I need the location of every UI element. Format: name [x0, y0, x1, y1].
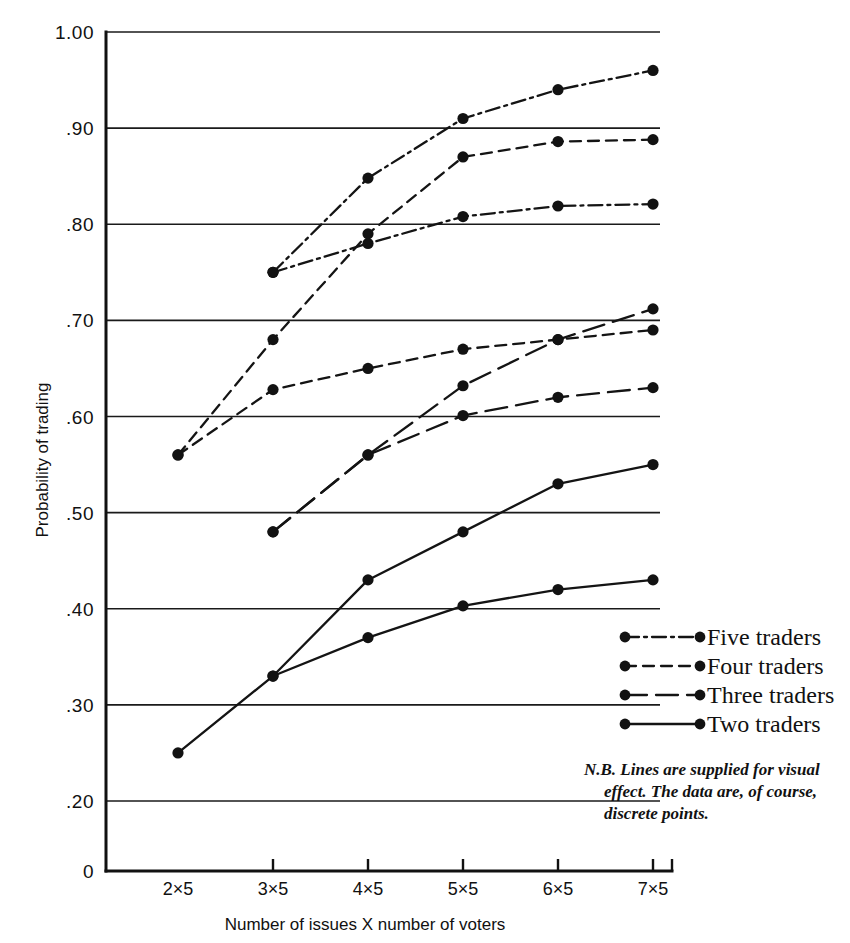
- x-axis-title: Number of issues X number of voters: [225, 915, 506, 934]
- data-point-marker: [552, 200, 563, 211]
- data-point-marker: [552, 478, 563, 489]
- data-point-marker: [267, 526, 278, 537]
- legend-label: Five traders: [707, 624, 821, 650]
- chart-figure: 1.00.90.80.70.60.50.40.30.200 2×53×54×55…: [0, 0, 850, 943]
- data-point-marker: [552, 584, 563, 595]
- figure-note-line: N.B. Lines are supplied for visual: [583, 760, 820, 779]
- data-point-marker: [457, 380, 468, 391]
- y-tick-label: .80: [66, 214, 94, 235]
- figure-note-line: discrete points.: [604, 804, 709, 823]
- data-point-marker: [647, 198, 658, 209]
- legend-label: Three traders: [707, 682, 834, 708]
- y-axis-title: Probability of trading: [33, 383, 52, 538]
- data-point-marker: [267, 670, 278, 681]
- data-point-marker: [552, 334, 563, 345]
- x-tick-label: 4×5: [353, 879, 384, 899]
- probability-of-trading-line-chart: 1.00.90.80.70.60.50.40.30.200 2×53×54×55…: [0, 0, 850, 943]
- legend-marker-start: [620, 632, 631, 643]
- data-point-marker: [647, 459, 658, 470]
- y-tick-label: 0: [83, 861, 94, 882]
- data-point-marker: [267, 334, 278, 345]
- legend-marker-start: [620, 719, 631, 730]
- y-tick-label: .40: [66, 599, 94, 620]
- y-tick-label: 1.00: [55, 22, 94, 43]
- data-point-marker: [267, 384, 278, 395]
- legend-marker-end: [695, 690, 706, 701]
- data-point-marker: [267, 267, 278, 278]
- data-point-marker: [552, 392, 563, 403]
- data-point-marker: [172, 449, 183, 460]
- x-tick-label: 6×5: [543, 879, 574, 899]
- y-tick-label: .30: [66, 695, 94, 716]
- data-point-marker: [647, 382, 658, 393]
- x-tick-label: 7×5: [638, 879, 669, 899]
- data-point-marker: [362, 173, 373, 184]
- data-point-marker: [647, 574, 658, 585]
- data-point-marker: [362, 238, 373, 249]
- legend-marker-end: [695, 661, 706, 672]
- y-tick-label: .50: [66, 503, 94, 524]
- x-tick-label: 2×5: [163, 879, 194, 899]
- legend-marker-end: [695, 719, 706, 730]
- data-point-marker: [172, 747, 183, 758]
- data-point-marker: [362, 449, 373, 460]
- data-point-marker: [647, 324, 658, 335]
- data-point-marker: [362, 363, 373, 374]
- x-tick-label: 3×5: [258, 879, 289, 899]
- legend-marker-start: [620, 690, 631, 701]
- data-point-marker: [552, 84, 563, 95]
- data-point-marker: [647, 134, 658, 145]
- data-point-marker: [457, 410, 468, 421]
- data-point-marker: [362, 632, 373, 643]
- legend-marker-end: [695, 632, 706, 643]
- x-tick-label: 5×5: [448, 879, 479, 899]
- legend-label: Two traders: [707, 711, 821, 737]
- data-point-marker: [552, 136, 563, 147]
- data-point-marker: [457, 344, 468, 355]
- data-point-marker: [457, 151, 468, 162]
- data-point-marker: [457, 600, 468, 611]
- data-point-marker: [457, 526, 468, 537]
- data-point-marker: [362, 228, 373, 239]
- y-tick-label: .60: [66, 407, 94, 428]
- y-tick-label: .70: [66, 310, 94, 331]
- figure-note-line: effect. The data are, of course,: [604, 782, 817, 801]
- data-point-marker: [457, 113, 468, 124]
- y-tick-label: .90: [66, 118, 94, 139]
- data-point-marker: [647, 65, 658, 76]
- y-tick-label: .20: [66, 791, 94, 812]
- data-point-marker: [647, 303, 658, 314]
- legend-marker-start: [620, 661, 631, 672]
- data-point-marker: [362, 574, 373, 585]
- data-point-marker: [457, 211, 468, 222]
- legend-label: Four traders: [707, 653, 824, 679]
